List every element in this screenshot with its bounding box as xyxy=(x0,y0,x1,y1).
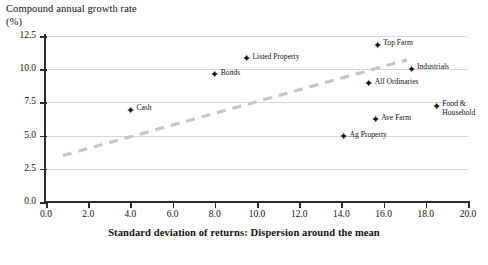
x-tick-label: 20.0 xyxy=(448,209,488,219)
y-axis-title-line1: Compound annual growth rate xyxy=(6,3,137,14)
gridline xyxy=(46,169,468,170)
x-tick xyxy=(384,203,386,208)
figure-scatter-risk-return: Compound annual growth rate (%) 0.02.55.… xyxy=(0,0,488,265)
diamond-marker-icon xyxy=(373,41,382,50)
x-tick xyxy=(468,203,470,208)
gridline xyxy=(46,102,468,103)
y-tick-label: 12.5 xyxy=(0,30,36,40)
y-tick xyxy=(40,169,47,171)
gridline xyxy=(46,36,468,37)
x-tick-label: 4.0 xyxy=(110,209,150,219)
data-point-label: Industrials xyxy=(417,63,449,72)
x-tick xyxy=(88,203,90,208)
y-tick xyxy=(40,69,47,71)
data-point-label: Bonds xyxy=(221,69,240,78)
y-axis-title-line2: (%) xyxy=(6,15,306,28)
x-tick xyxy=(130,203,132,208)
y-tick xyxy=(40,102,47,104)
data-point-label: Listed Property xyxy=(252,53,299,62)
y-tick-label: 0.0 xyxy=(0,196,36,206)
x-tick xyxy=(426,203,428,208)
y-tick-label: 5.0 xyxy=(0,130,36,140)
diamond-marker-icon xyxy=(371,115,380,124)
x-tick xyxy=(341,203,343,208)
data-point-label: Ag Property xyxy=(350,131,387,140)
y-tick-label: 7.5 xyxy=(0,96,36,106)
y-axis-title: Compound annual growth rate (%) xyxy=(6,2,306,28)
x-tick xyxy=(46,203,48,208)
diamond-marker-icon xyxy=(210,70,219,79)
x-tick-label: 2.0 xyxy=(68,209,108,219)
x-tick-label: 14.0 xyxy=(321,209,361,219)
data-point-label: All Ordinaries xyxy=(375,78,419,87)
figure-caption xyxy=(8,256,208,265)
x-tick-label: 12.0 xyxy=(279,209,319,219)
y-tick-label: 2.5 xyxy=(0,163,36,173)
diamond-marker-icon xyxy=(432,102,441,111)
x-tick xyxy=(257,203,259,208)
x-tick-label: 10.0 xyxy=(237,209,277,219)
x-tick-label: 18.0 xyxy=(406,209,446,219)
gridline xyxy=(46,136,468,137)
data-point-label: Ave Farm xyxy=(381,114,411,123)
x-tick xyxy=(299,203,301,208)
data-point-label: Cash xyxy=(136,104,151,113)
diamond-marker-icon xyxy=(126,106,135,115)
x-tick xyxy=(215,203,217,208)
y-tick xyxy=(40,36,47,38)
x-tick-label: 8.0 xyxy=(195,209,235,219)
diamond-marker-icon xyxy=(242,54,251,63)
x-tick xyxy=(173,203,175,208)
x-tick-label: 6.0 xyxy=(153,209,193,219)
x-axis-title: Standard deviation of returns: Dispersio… xyxy=(0,227,488,238)
data-point-label: Food & Household xyxy=(442,100,484,117)
x-tick-label: 0.0 xyxy=(26,209,66,219)
diamond-marker-icon xyxy=(339,132,348,141)
data-point-label: Top Farm xyxy=(383,39,413,48)
diamond-marker-icon xyxy=(407,65,416,74)
y-tick xyxy=(40,136,47,138)
y-tick-label: 10.0 xyxy=(0,63,36,73)
diamond-marker-icon xyxy=(364,79,373,88)
gridline xyxy=(46,69,468,70)
x-tick-label: 16.0 xyxy=(364,209,404,219)
